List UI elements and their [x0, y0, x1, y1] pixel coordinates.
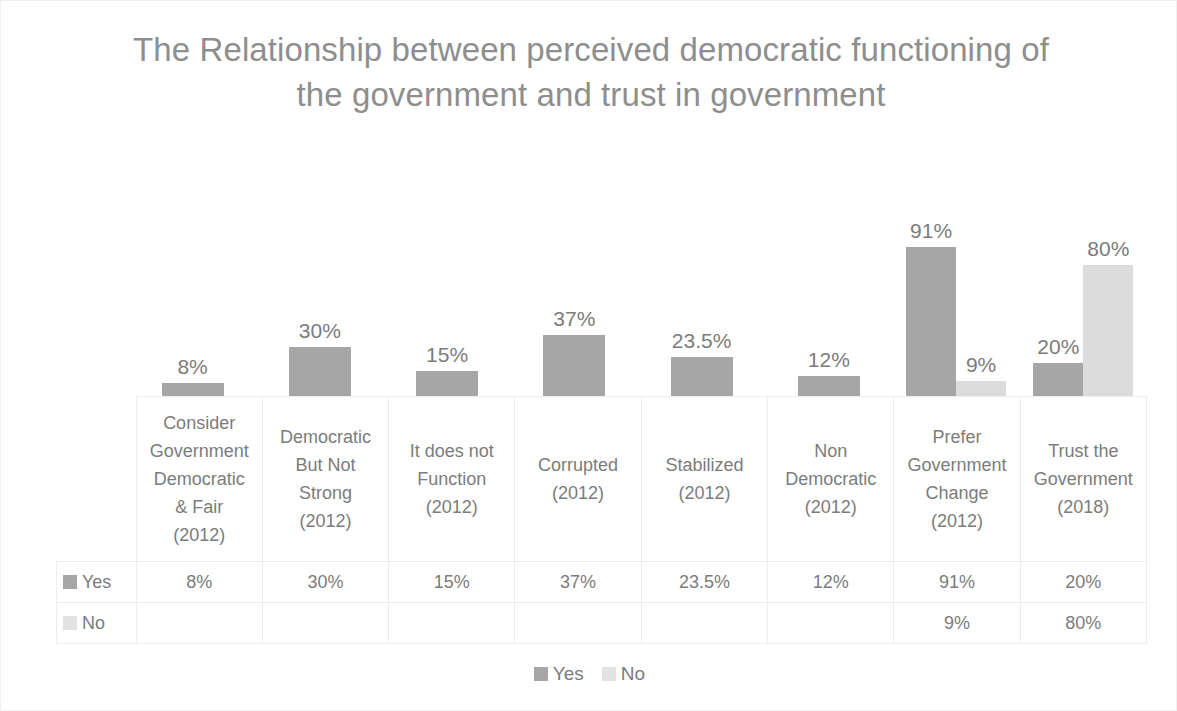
chart-title: The Relationship between perceived democ… — [121, 27, 1061, 117]
table-series-label-no: No — [57, 603, 137, 644]
header-line: Trust the — [1024, 437, 1143, 465]
table-cell: 12% — [768, 562, 894, 603]
header-line: Government — [140, 437, 259, 465]
bar-rect — [1033, 363, 1083, 396]
header-line: Democratic — [771, 465, 890, 493]
bar-value-label: 8% — [133, 355, 253, 379]
header-line: (2012) — [897, 507, 1016, 535]
bar-value-label: 30% — [260, 319, 380, 343]
bar-yes[interactable]: 30% — [289, 197, 351, 396]
legend-item-yes[interactable]: Yes — [534, 663, 584, 685]
bar-group: 8% — [129, 197, 256, 396]
legend-swatch-icon — [602, 667, 616, 681]
bar-rect — [289, 347, 351, 396]
bar-rect — [671, 357, 733, 396]
header-line: (2012) — [266, 507, 385, 535]
table-cell — [136, 603, 262, 644]
bar-rect — [543, 335, 605, 396]
bar-yes[interactable]: 8% — [162, 197, 224, 396]
bar-yes[interactable]: 20% — [1033, 197, 1083, 396]
table-column-header: It does notFunction(2012) — [389, 397, 515, 562]
table-column-header: ConsiderGovernmentDemocratic& Fair(2012) — [136, 397, 262, 562]
bar-group: 91%9% — [893, 197, 1020, 396]
chart-data-table: ConsiderGovernmentDemocratic& Fair(2012)… — [56, 396, 1147, 644]
table-cell: 30% — [262, 562, 388, 603]
table-column-header: Trust theGovernment(2018) — [1020, 397, 1146, 562]
table-cell: 8% — [136, 562, 262, 603]
header-line: Government — [1024, 465, 1143, 493]
bar-rect — [798, 376, 860, 396]
table-column-header: DemocraticBut NotStrong(2012) — [262, 397, 388, 562]
chart-legend: YesNo — [1, 663, 1177, 685]
table-cell — [262, 603, 388, 644]
bar-group: 37% — [511, 197, 638, 396]
bar-yes[interactable]: 15% — [416, 197, 478, 396]
header-line: Democratic — [140, 465, 259, 493]
table-cell: 37% — [515, 562, 641, 603]
table-column-header: Stabilized(2012) — [641, 397, 767, 562]
table-corner-cell — [57, 397, 137, 562]
header-line: Change — [897, 479, 1016, 507]
table-cell — [641, 603, 767, 644]
table-column-header: Corrupted(2012) — [515, 397, 641, 562]
header-line: Function — [392, 465, 511, 493]
header-line: Prefer — [897, 423, 1016, 451]
header-line: Strong — [266, 479, 385, 507]
header-line: It does not — [392, 437, 511, 465]
legend-item-label: No — [621, 663, 645, 684]
table-cell: 80% — [1020, 603, 1146, 644]
bar-yes[interactable]: 37% — [543, 197, 605, 396]
bar-value-label: 12% — [769, 348, 889, 372]
bar-no[interactable]: 80% — [1083, 197, 1133, 396]
header-line: Government — [897, 451, 1016, 479]
table-cell — [515, 603, 641, 644]
bar-no[interactable]: 9% — [956, 197, 1006, 396]
bar-value-label: 80% — [1048, 237, 1168, 261]
table-column-header: NonDemocratic(2012) — [768, 397, 894, 562]
chart-container: The Relationship between perceived democ… — [0, 0, 1177, 711]
table-cell: 20% — [1020, 562, 1146, 603]
header-line: Democratic — [266, 423, 385, 451]
bar-rect — [416, 371, 478, 396]
header-line: Corrupted — [518, 451, 637, 479]
bar-value-label: 15% — [387, 343, 507, 367]
bar-group: 20%80% — [1020, 197, 1147, 396]
series-swatch-icon — [63, 575, 77, 589]
plot-area: 8%30%15%37%23.5%12%91%9%20%80% — [129, 197, 1147, 396]
header-line: Consider — [140, 409, 259, 437]
table-column-header: PreferGovernmentChange(2012) — [894, 397, 1020, 562]
bar-group: 15% — [384, 197, 511, 396]
bar-group: 30% — [256, 197, 383, 396]
series-label-text: No — [82, 613, 105, 633]
series-swatch-icon — [63, 616, 77, 630]
header-line: (2012) — [140, 521, 259, 549]
bar-yes[interactable]: 12% — [798, 197, 860, 396]
bar-rect — [956, 381, 1006, 396]
table-header-row: ConsiderGovernmentDemocratic& Fair(2012)… — [57, 397, 1147, 562]
header-line: (2012) — [518, 479, 637, 507]
bar-yes[interactable]: 23.5% — [671, 197, 733, 396]
table-cell: 9% — [894, 603, 1020, 644]
legend-item-no[interactable]: No — [602, 663, 645, 685]
table-row: Yes8%30%15%37%23.5%12%91%20% — [57, 562, 1147, 603]
legend-item-label: Yes — [553, 663, 584, 684]
table-row: No9%80% — [57, 603, 1147, 644]
bar-rect — [1083, 265, 1133, 396]
legend-swatch-icon — [534, 667, 548, 681]
header-line: & Fair — [140, 493, 259, 521]
bar-value-label: 23.5% — [642, 329, 762, 353]
header-line: (2018) — [1024, 493, 1143, 521]
table-cell: 15% — [389, 562, 515, 603]
header-line: But Not — [266, 451, 385, 479]
table-cell: 23.5% — [641, 562, 767, 603]
table-cell — [389, 603, 515, 644]
series-label-text: Yes — [82, 572, 111, 592]
bar-rect — [162, 383, 224, 396]
bar-value-label: 37% — [514, 307, 634, 331]
header-line: Non — [771, 437, 890, 465]
table-cell: 91% — [894, 562, 1020, 603]
header-line: Stabilized — [645, 451, 764, 479]
header-line: (2012) — [392, 493, 511, 521]
bar-group: 23.5% — [638, 197, 765, 396]
header-line: (2012) — [771, 493, 890, 521]
